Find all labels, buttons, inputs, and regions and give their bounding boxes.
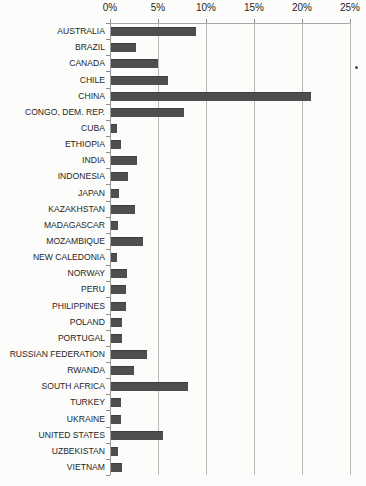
y-axis-tick <box>106 168 110 169</box>
bar <box>111 285 126 294</box>
y-axis-tick <box>106 249 110 250</box>
y-axis-tick <box>106 362 110 363</box>
category-label: PERU <box>0 285 105 294</box>
bar <box>111 43 136 52</box>
x-axis-tick <box>350 19 351 23</box>
category-label: RUSSIAN FEDERATION <box>0 350 105 359</box>
category-label: KAZAKHSTAN <box>0 205 105 214</box>
y-axis-tick <box>106 55 110 56</box>
bar <box>111 27 196 36</box>
bar <box>111 124 117 133</box>
category-label: NEW CALEDONIA <box>0 253 105 262</box>
category-label: PORTUGAL <box>0 334 105 343</box>
category-label: INDIA <box>0 156 105 165</box>
x-axis-tick <box>254 19 255 23</box>
y-axis-tick <box>106 39 110 40</box>
category-label: INDONESIA <box>0 172 105 181</box>
y-axis-tick <box>106 427 110 428</box>
x-axis-tick-label: 20% <box>292 2 312 13</box>
x-axis-tick <box>158 19 159 23</box>
scan-artifact-dot <box>355 66 358 69</box>
bar <box>111 463 122 472</box>
bar <box>111 59 158 68</box>
x-axis-tick <box>206 19 207 23</box>
category-label: VIETNAM <box>0 463 105 472</box>
category-label: ETHIOPIA <box>0 140 105 149</box>
y-axis-tick <box>106 88 110 89</box>
y-axis-tick <box>106 71 110 72</box>
bar <box>111 334 122 343</box>
y-axis-tick <box>106 475 110 476</box>
category-label: CONGO, DEM. REP. <box>0 108 105 117</box>
bar <box>111 366 134 375</box>
bar <box>111 398 121 407</box>
category-label: JAPAN <box>0 189 105 198</box>
bar <box>111 76 168 85</box>
y-axis-tick <box>106 330 110 331</box>
bar <box>111 415 121 424</box>
y-axis-tick <box>106 281 110 282</box>
category-label: BRAZIL <box>0 43 105 52</box>
x-axis-line <box>110 23 350 24</box>
x-axis-tick <box>302 19 303 23</box>
bar <box>111 253 117 262</box>
bar <box>111 156 137 165</box>
y-axis-tick <box>106 104 110 105</box>
category-label: TURKEY <box>0 398 105 407</box>
category-label: UZBEKISTAN <box>0 447 105 456</box>
category-label: CHINA <box>0 92 105 101</box>
y-axis-tick <box>106 297 110 298</box>
x-axis-tick <box>110 19 111 23</box>
y-axis-tick <box>106 265 110 266</box>
category-label: CHILE <box>0 76 105 85</box>
category-label: NORWAY <box>0 269 105 278</box>
category-label: CANADA <box>0 59 105 68</box>
x-axis-tick-label: 10% <box>196 2 216 13</box>
y-axis-tick <box>106 217 110 218</box>
category-label: UKRAINE <box>0 415 105 424</box>
bar <box>111 140 121 149</box>
bar <box>111 318 122 327</box>
y-axis-tick <box>106 443 110 444</box>
category-label: SOUTH AFRICA <box>0 382 105 391</box>
y-axis-tick <box>106 410 110 411</box>
category-label: AUSTRALIA <box>0 27 105 36</box>
y-axis-tick <box>106 184 110 185</box>
bar <box>111 237 143 246</box>
y-axis-tick <box>106 378 110 379</box>
category-label: MOZAMBIQUE <box>0 237 105 246</box>
y-axis-tick <box>106 201 110 202</box>
bar <box>111 431 163 440</box>
y-axis-tick <box>106 233 110 234</box>
x-axis-tick-label: 15% <box>244 2 264 13</box>
bar <box>111 205 135 214</box>
y-axis-tick <box>106 314 110 315</box>
category-label: MADAGASCAR <box>0 221 105 230</box>
bar <box>111 302 126 311</box>
y-axis-tick <box>106 152 110 153</box>
category-label: PHILIPPINES <box>0 302 105 311</box>
bar <box>111 447 118 456</box>
x-axis-tick-label: 0% <box>103 2 117 13</box>
y-axis-tick <box>106 394 110 395</box>
bar <box>111 108 184 117</box>
x-axis-tick-label: 25% <box>340 2 360 13</box>
x-axis-tick-label: 5% <box>151 2 165 13</box>
category-label: UNITED STATES <box>0 431 105 440</box>
category-label: RWANDA <box>0 366 105 375</box>
y-axis-tick <box>106 23 110 24</box>
y-axis-tick <box>106 346 110 347</box>
bar <box>111 269 127 278</box>
bar-chart: 0%5%10%15%20%25%AUSTRALIABRAZILCANADACHI… <box>0 0 366 486</box>
y-axis-tick <box>106 459 110 460</box>
category-label: CUBA <box>0 124 105 133</box>
y-axis-tick <box>106 136 110 137</box>
y-axis-tick <box>106 120 110 121</box>
bar <box>111 172 128 181</box>
bar <box>111 189 119 198</box>
bar <box>111 350 147 359</box>
bar <box>111 221 118 230</box>
bar <box>111 382 188 391</box>
gridline <box>350 23 351 475</box>
category-label: POLAND <box>0 318 105 327</box>
